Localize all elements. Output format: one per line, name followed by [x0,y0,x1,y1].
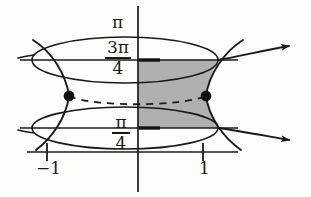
label-x-one: 1 [199,160,210,177]
hyperboloid-figure: π 3π 4 π 4 −1 1 [0,0,311,197]
fraction-numerator: 3π [105,39,131,56]
fraction-denominator: 4 [111,60,126,77]
fraction-numerator: π [113,114,128,131]
label-three-pi-over-four: 3π 4 [105,39,131,77]
fraction-three-pi-over-four: 3π 4 [105,39,131,77]
upper-left-tail [18,55,34,58]
left-vertex-dot [64,91,75,102]
fraction-pi-over-four: π 4 [112,114,130,152]
label-x-negative-one: −1 [36,160,61,177]
left-profile-curve [33,40,69,150]
label-pi-over-four: π 4 [112,114,130,152]
lower-left-tail [18,130,34,133]
fraction-denominator: 4 [114,135,129,152]
right-vertex-dot [201,91,212,102]
label-pi: π [112,14,123,31]
